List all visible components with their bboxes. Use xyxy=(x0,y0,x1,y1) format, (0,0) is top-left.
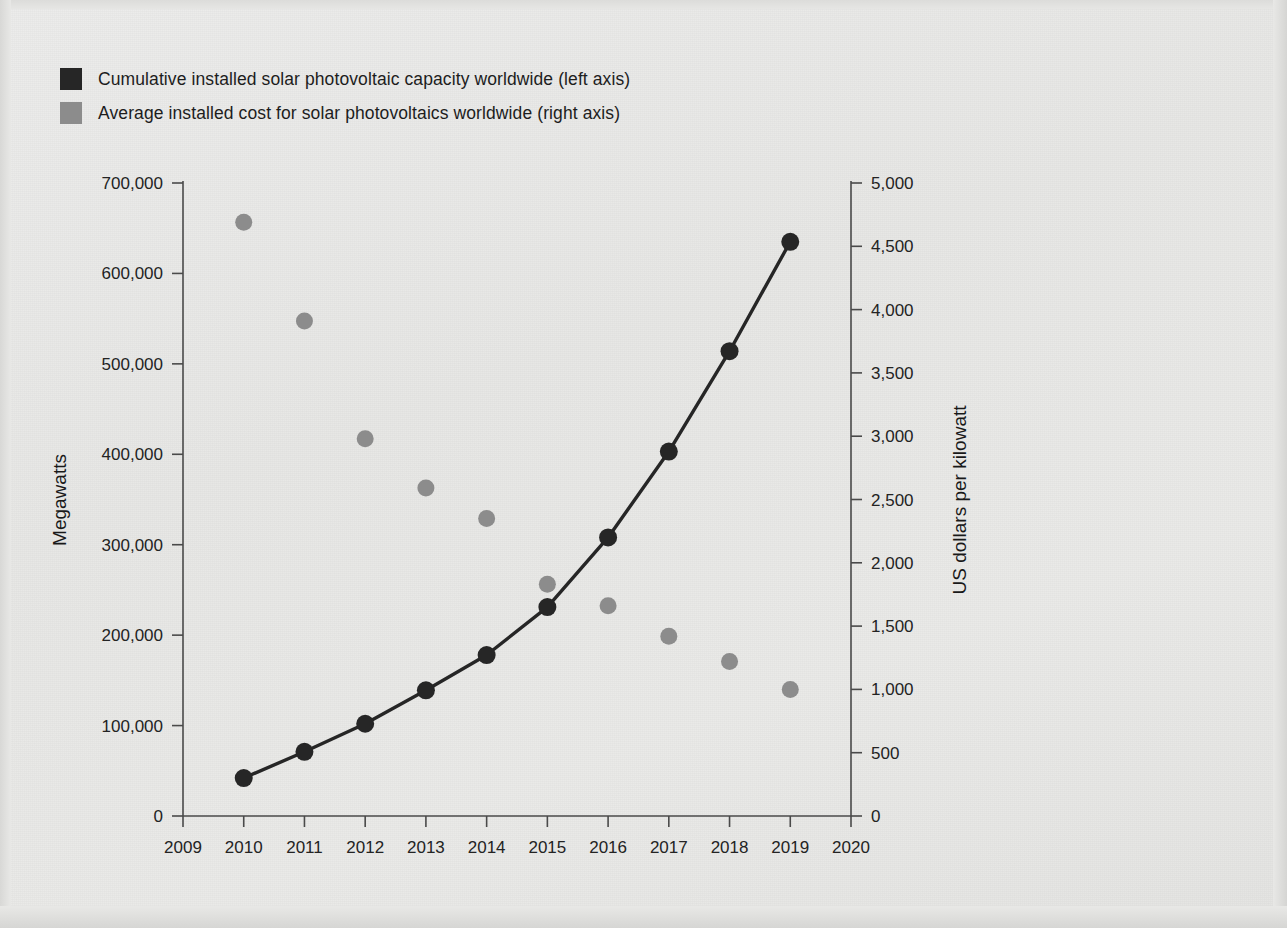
chart-plot: 0100,000200,000300,000400,000500,000600,… xyxy=(0,0,1287,928)
x-axis-tick-label: 2010 xyxy=(225,838,263,857)
x-axis-tick-label: 2014 xyxy=(468,838,506,857)
data-point xyxy=(721,653,738,670)
x-axis-tick-label: 2016 xyxy=(589,838,627,857)
left-axis-tick-label: 500,000 xyxy=(102,355,163,374)
left-axis-tick-label: 400,000 xyxy=(102,445,163,464)
right-axis-tick-label: 2,500 xyxy=(871,491,914,510)
data-point xyxy=(478,510,495,527)
data-point xyxy=(660,443,678,461)
right-axis-title: US dollars per kilowatt xyxy=(949,405,970,595)
x-axis-tick-label: 2018 xyxy=(711,838,749,857)
x-axis-tick-label: 2011 xyxy=(286,838,323,857)
data-point xyxy=(539,576,556,593)
right-axis-tick-label: 4,000 xyxy=(871,301,914,320)
series-line xyxy=(244,242,791,778)
x-axis-tick-label: 2020 xyxy=(832,838,870,857)
data-point xyxy=(478,646,496,664)
right-axis-tick-label: 3,000 xyxy=(871,427,914,446)
series-capacity xyxy=(235,233,800,787)
x-axis-tick-label: 2009 xyxy=(164,838,202,857)
right-axis-tick-label: 0 xyxy=(871,807,880,826)
data-point xyxy=(599,528,617,546)
x-axis-tick-label: 2019 xyxy=(771,838,809,857)
left-axis-tick-label: 300,000 xyxy=(102,536,163,555)
left-axis-tick-label: 100,000 xyxy=(102,717,163,736)
left-axis-tick-label: 600,000 xyxy=(102,264,163,283)
data-point xyxy=(417,681,435,699)
x-axis-tick-label: 2015 xyxy=(528,838,566,857)
chart-page: Cumulative installed solar photovoltaic … xyxy=(0,0,1287,928)
left-axis-tick-label: 200,000 xyxy=(102,626,163,645)
data-point xyxy=(296,312,313,329)
data-point xyxy=(721,342,739,360)
right-axis-tick-label: 5,000 xyxy=(871,174,914,193)
right-axis-tick-label: 1,500 xyxy=(871,617,914,636)
x-axis-tick-label: 2012 xyxy=(346,838,384,857)
data-point xyxy=(235,769,253,787)
data-point xyxy=(600,597,617,614)
data-point xyxy=(235,214,252,231)
data-point xyxy=(538,598,556,616)
right-axis-tick-label: 3,500 xyxy=(871,364,914,383)
left-axis-tick-label: 0 xyxy=(154,807,163,826)
data-point xyxy=(417,480,434,497)
right-axis-tick-label: 500 xyxy=(871,744,899,763)
data-point xyxy=(660,628,677,645)
left-axis-tick-label: 700,000 xyxy=(102,174,163,193)
data-point xyxy=(356,715,374,733)
series-cost xyxy=(235,214,799,698)
data-point xyxy=(782,681,799,698)
left-axis-title: Megawatts xyxy=(49,454,70,546)
right-axis-tick-label: 2,000 xyxy=(871,554,914,573)
x-axis-tick-label: 2013 xyxy=(407,838,445,857)
data-point xyxy=(295,743,313,761)
x-axis-tick-label: 2017 xyxy=(650,838,688,857)
right-axis-tick-label: 1,000 xyxy=(871,680,914,699)
data-point xyxy=(781,233,799,251)
right-axis-tick-label: 4,500 xyxy=(871,237,914,256)
data-point xyxy=(357,430,374,447)
